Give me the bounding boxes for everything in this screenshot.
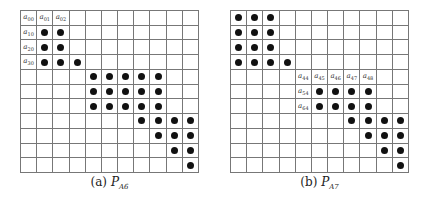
grid-cell — [150, 40, 166, 55]
grid-cell — [312, 26, 328, 41]
nonzero-dot-icon — [41, 29, 48, 36]
caption-a: (a) PA6 — [20, 175, 199, 191]
grid-cell — [263, 40, 279, 55]
grid-cell — [296, 144, 312, 159]
grid-cell — [183, 99, 199, 114]
grid-cell — [247, 70, 263, 85]
grid-cell — [280, 158, 296, 173]
nonzero-dot-icon — [251, 14, 258, 21]
grid-cell — [231, 85, 247, 100]
grid-cell — [377, 55, 393, 70]
grid-cell — [280, 129, 296, 144]
grid-cell: a02 — [53, 11, 69, 26]
grid-cell — [150, 158, 166, 173]
entry-label: a48 — [363, 72, 374, 81]
nonzero-dot-icon — [397, 132, 404, 139]
grid-cell — [37, 55, 53, 70]
grid-cell — [150, 129, 166, 144]
nonzero-dot-icon — [90, 73, 97, 80]
nonzero-dot-icon — [74, 59, 81, 66]
grid-cell — [344, 158, 360, 173]
grid-cell — [118, 40, 134, 55]
grid-cell — [231, 99, 247, 114]
grid-cell — [393, 144, 409, 159]
grid-cell — [247, 85, 263, 100]
grid-cell — [70, 158, 86, 173]
grid-cell — [377, 85, 393, 100]
grid-cell — [102, 158, 118, 173]
entry-label: a20 — [23, 43, 34, 52]
grid-cell — [21, 114, 37, 129]
grid-cell — [328, 11, 344, 26]
nonzero-dot-icon — [365, 103, 372, 110]
nonzero-dot-icon — [122, 73, 129, 80]
grid-cell — [296, 55, 312, 70]
grid-cell — [102, 70, 118, 85]
grid-cell — [377, 11, 393, 26]
nonzero-dot-icon — [267, 59, 274, 66]
nonzero-dot-icon — [381, 117, 388, 124]
grid-cell — [377, 70, 393, 85]
nonzero-dot-icon — [284, 59, 291, 66]
grid-cell — [53, 114, 69, 129]
grid-cell — [393, 158, 409, 173]
grid-cell — [377, 114, 393, 129]
nonzero-dot-icon — [122, 103, 129, 110]
grid-cell — [70, 85, 86, 100]
grid-cell — [344, 85, 360, 100]
nonzero-dot-icon — [41, 44, 48, 51]
figure-a: a00a01a02a10a20a30 (a) PA6 — [20, 10, 199, 173]
grid-cell — [37, 70, 53, 85]
grid-cell — [134, 129, 150, 144]
grid-cell — [393, 26, 409, 41]
grid-cell — [134, 40, 150, 55]
nonzero-dot-icon — [57, 59, 64, 66]
grid-cell — [344, 26, 360, 41]
grid-cell — [167, 99, 183, 114]
grid-cell: a46 — [328, 70, 344, 85]
grid-cell — [183, 55, 199, 70]
grid-cell — [70, 40, 86, 55]
nonzero-dot-icon — [106, 73, 113, 80]
grid-cell — [280, 40, 296, 55]
nonzero-dot-icon — [138, 73, 145, 80]
entry-label: a02 — [56, 13, 67, 22]
grid-cell — [134, 158, 150, 173]
grid-cell — [247, 26, 263, 41]
grid-cell — [86, 158, 102, 173]
nonzero-dot-icon — [90, 103, 97, 110]
grid-cell — [280, 114, 296, 129]
nonzero-dot-icon — [235, 29, 242, 36]
grid-cell — [247, 158, 263, 173]
grid-cell — [70, 11, 86, 26]
grid-cell — [21, 158, 37, 173]
grid-cell — [183, 129, 199, 144]
grid-cell — [247, 129, 263, 144]
grid-cell — [183, 40, 199, 55]
grid-cell — [86, 55, 102, 70]
grid-cell — [360, 85, 376, 100]
grid-cell: a20 — [21, 40, 37, 55]
nonzero-dot-icon — [397, 147, 404, 154]
nonzero-dot-icon — [397, 117, 404, 124]
grid-cell — [37, 144, 53, 159]
grid-cell — [118, 114, 134, 129]
grid-cell — [328, 99, 344, 114]
nonzero-dot-icon — [267, 44, 274, 51]
grid-cell — [37, 26, 53, 41]
grid-cell — [86, 11, 102, 26]
nonzero-dot-icon — [57, 29, 64, 36]
nonzero-dot-icon — [106, 88, 113, 95]
grid-cell — [360, 114, 376, 129]
figure-b: a44a45a46a47a48a54a64 (b) PA7 — [230, 10, 409, 173]
grid-cell — [53, 144, 69, 159]
caption-b-symbol: PA7 — [321, 175, 339, 189]
grid-cell — [312, 99, 328, 114]
grid-cell: a54 — [296, 85, 312, 100]
grid-cell — [53, 85, 69, 100]
grid-cell — [21, 129, 37, 144]
grid-cell — [118, 26, 134, 41]
entry-label: a54 — [298, 87, 309, 96]
grid-cell — [102, 40, 118, 55]
nonzero-dot-icon — [348, 117, 355, 124]
